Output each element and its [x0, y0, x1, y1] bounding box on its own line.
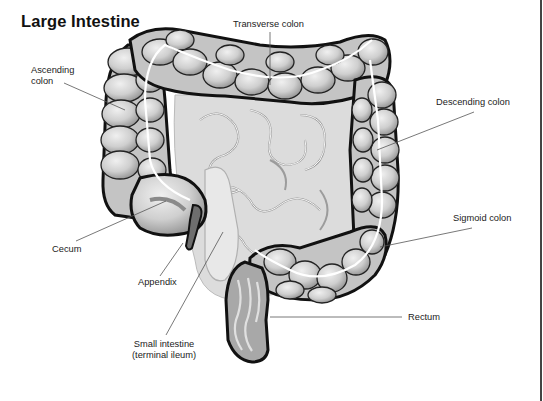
label-appendix: Appendix — [138, 277, 177, 288]
label-cecum: Cecum — [52, 244, 81, 255]
label-transverse-colon: Transverse colon — [233, 19, 304, 30]
label-small-intestine-line2: (terminal ileum) — [132, 350, 196, 361]
leader-appendix — [160, 243, 183, 276]
diagram-canvas: Large Intestine Transverse colon Ascendi… — [0, 0, 543, 401]
rectum-shape — [226, 262, 268, 362]
label-sigmoid-colon: Sigmoid colon — [453, 213, 511, 224]
label-ascending-colon-line2: colon — [31, 76, 74, 87]
diagram-title: Large Intestine — [21, 12, 140, 31]
large-intestine-illustration — [0, 0, 543, 401]
transverse-colon-shape — [130, 29, 390, 104]
label-small-intestine-line1: Small intestine — [132, 339, 196, 350]
label-descending-colon: Descending colon — [436, 97, 510, 108]
label-ascending-colon: Ascending colon — [31, 65, 74, 87]
label-small-intestine: Small intestine (terminal ileum) — [132, 339, 196, 361]
label-rectum: Rectum — [408, 312, 440, 323]
frame-border-right — [540, 0, 542, 401]
label-ascending-colon-line1: Ascending — [31, 65, 74, 76]
